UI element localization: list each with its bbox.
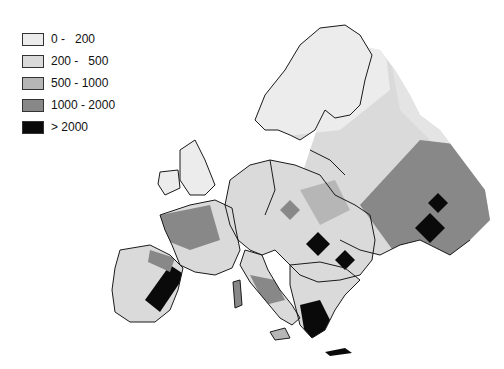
legend-swatch (22, 121, 44, 134)
legend-label: 200 - 500 (51, 54, 108, 68)
legend-item: 500 - 1000 (22, 72, 115, 94)
legend-swatch (22, 55, 44, 68)
legend-label: > 2000 (51, 120, 88, 134)
crete-island (325, 348, 352, 356)
legend-swatch (22, 99, 44, 112)
sardinia-island (233, 280, 242, 308)
legend-item: 1000 - 2000 (22, 94, 115, 116)
legend-swatch (22, 33, 44, 46)
legend-label: 0 - 200 (51, 32, 95, 46)
legend-item: > 2000 (22, 116, 115, 138)
legend-item: 200 - 500 (22, 50, 115, 72)
map-legend: 0 - 200 200 - 500 500 - 1000 1000 - 2000… (22, 28, 115, 138)
legend-item: 0 - 200 (22, 28, 115, 50)
legend-swatch (22, 77, 44, 90)
legend-label: 1000 - 2000 (51, 98, 115, 112)
sicily-island (270, 328, 290, 340)
legend-label: 500 - 1000 (51, 76, 108, 90)
